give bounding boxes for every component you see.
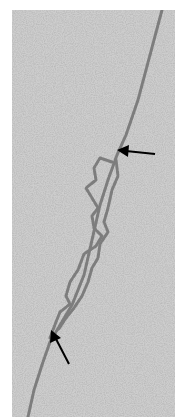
- electron-micrograph: [12, 10, 175, 417]
- micrograph-canvas: [12, 10, 175, 417]
- arrow-lower-icon: [49, 330, 71, 366]
- arrow-upper-icon: [117, 145, 157, 159]
